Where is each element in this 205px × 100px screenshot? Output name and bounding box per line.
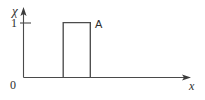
figure-canvas	[0, 0, 205, 100]
x-axis-label: x	[189, 80, 194, 92]
origin-label-zero: 0	[10, 79, 16, 91]
y-tick-label-one: 1	[11, 17, 17, 29]
region-label-a: A	[95, 19, 102, 30]
characteristic-function-figure: χ x 1 0 A	[0, 0, 205, 100]
pulse-rectangle	[63, 23, 90, 78]
